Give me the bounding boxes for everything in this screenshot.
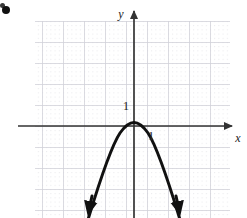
y-axis-label: y	[117, 7, 124, 21]
grid-area	[35, 21, 230, 218]
x-axis-label: x	[234, 131, 241, 145]
x-unit-tick-label: 1	[148, 128, 155, 143]
y-unit-tick-label: 1	[123, 98, 130, 113]
figure-screenshot: y x 1 1	[0, 0, 247, 218]
parabola-graph: y x 1 1	[0, 0, 247, 218]
